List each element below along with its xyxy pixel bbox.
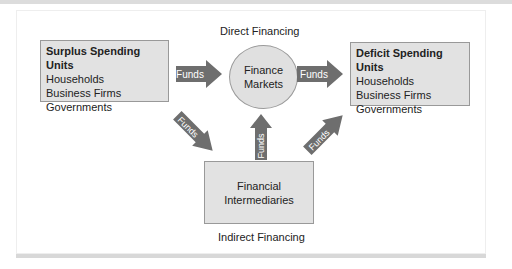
- intermediaries-line1: Financial: [237, 179, 281, 193]
- right-arrow-icon: Funds: [176, 60, 222, 88]
- arrow-markets-to-deficit: Funds: [297, 60, 343, 88]
- surplus-item: Governments: [46, 100, 163, 114]
- indirect-financing-caption: Indirect Financing: [218, 231, 305, 243]
- arrow-surplus-to-intermediaries: Funds: [170, 108, 220, 158]
- markets-line2: Markets: [244, 77, 283, 91]
- surplus-spending-units-box: Surplus Spending Units Households Busine…: [40, 40, 169, 102]
- svg-text:Funds: Funds: [300, 69, 328, 80]
- deficit-item: Business Firms: [356, 88, 464, 102]
- up-arrow-icon: Funds: [250, 114, 272, 160]
- deficit-spending-units-box: Deficit Spending Units Households Busine…: [350, 42, 470, 106]
- intermediaries-line2: Intermediaries: [224, 193, 294, 207]
- svg-text:Funds: Funds: [256, 133, 266, 159]
- deficit-title: Deficit Spending Units: [356, 46, 464, 74]
- diagonal-arrow-icon: Funds: [170, 108, 220, 158]
- deficit-item: Governments: [356, 102, 464, 116]
- direct-financing-caption: Direct Financing: [220, 25, 299, 37]
- arrow-intermediaries-to-markets: Funds: [250, 114, 272, 160]
- markets-line1: Finance: [244, 63, 283, 77]
- surplus-title: Surplus Spending Units: [46, 44, 163, 72]
- financial-intermediaries-box: Financial Intermediaries: [204, 161, 314, 224]
- surplus-item: Households: [46, 72, 163, 86]
- svg-text:Funds: Funds: [176, 69, 204, 80]
- bottom-border: [16, 254, 486, 258]
- arrow-intermediaries-to-deficit: Funds: [300, 108, 350, 158]
- diagonal-arrow-icon: Funds: [300, 108, 350, 158]
- finance-markets-circle: Finance Markets: [229, 45, 298, 109]
- top-border: [0, 0, 512, 4]
- arrow-surplus-to-markets: Funds: [176, 60, 222, 88]
- right-arrow-icon: Funds: [297, 60, 343, 88]
- surplus-item: Business Firms: [46, 86, 163, 100]
- deficit-item: Households: [356, 74, 464, 88]
